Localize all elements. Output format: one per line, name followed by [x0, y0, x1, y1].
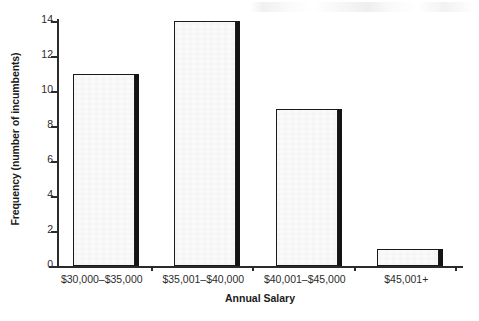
y-axis-title-text: Frequency (number of incumbents) [9, 53, 21, 226]
y-axis-title: Frequency (number of incumbents) [0, 0, 30, 278]
bar [73, 74, 135, 267]
scan-artifact [250, 2, 476, 12]
y-tick-label: 12 [41, 48, 53, 60]
x-tick-mark [455, 266, 457, 271]
x-tick-label: $35,001–$40,000 [153, 273, 255, 285]
y-tick-label: 4 [47, 188, 53, 200]
x-tick-mark [252, 266, 254, 271]
y-tick-label: 10 [41, 83, 53, 95]
bar [174, 21, 236, 266]
y-axis-line [57, 19, 59, 268]
x-tick-label: $30,000–$35,000 [51, 273, 153, 285]
bar-chart-figure: Frequency (number of incumbents) 0246810… [0, 0, 479, 321]
y-tick-label: 2 [47, 223, 53, 235]
x-tick-mark [151, 266, 153, 271]
x-tick-label: $40,001–$45,000 [254, 273, 356, 285]
y-tick-label: 8 [47, 118, 53, 130]
x-axis-line [49, 266, 463, 268]
bar [377, 249, 439, 267]
y-tick-label: 0 [47, 258, 53, 270]
bar [276, 109, 338, 267]
y-tick-label: 14 [41, 13, 53, 25]
y-tick-label: 6 [47, 153, 53, 165]
x-tick-mark [354, 266, 356, 271]
x-tick-label: $45,001+ [356, 273, 458, 285]
plot-area: 02468101214 $30,000–$35,000$35,001–$40,0… [57, 21, 463, 266]
x-axis-title: Annual Salary [57, 292, 463, 304]
